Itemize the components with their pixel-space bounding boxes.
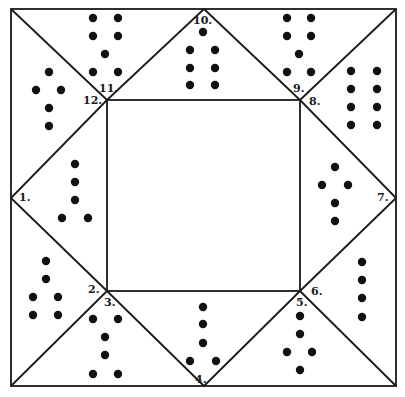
- numbered-dot-diagram: 1.2.3.4.5.6.7.8.9.10.11.12.: [0, 0, 405, 397]
- dot-icon: [29, 293, 37, 301]
- dot-icon: [54, 311, 62, 319]
- region-8-dots: [347, 67, 381, 129]
- dot-icon: [199, 339, 207, 347]
- region-6-dots: [358, 258, 366, 321]
- region-1-dots: [58, 160, 92, 222]
- region-4-dots: [186, 303, 220, 365]
- dot-icon: [358, 258, 366, 266]
- dot-icon: [331, 199, 339, 207]
- dot-icon: [101, 333, 109, 341]
- dot-icon: [347, 67, 355, 75]
- region-label-12: 12.: [83, 94, 102, 107]
- divider-line: [11, 100, 107, 198]
- dot-icon: [114, 14, 122, 22]
- dot-icon: [199, 303, 207, 311]
- dot-icon: [45, 122, 53, 130]
- dot-icon: [373, 103, 381, 111]
- dot-icon: [101, 351, 109, 359]
- region-3-dots: [89, 315, 122, 378]
- dot-icon: [211, 81, 219, 89]
- dot-icon: [186, 81, 194, 89]
- dot-icon: [45, 104, 53, 112]
- region-9-dots: [283, 14, 315, 76]
- divider-line: [204, 291, 300, 386]
- dot-icon: [186, 64, 194, 72]
- dot-icon: [57, 86, 65, 94]
- dot-icon: [331, 217, 339, 225]
- dot-icon: [89, 315, 97, 323]
- region-2-dots: [29, 257, 62, 319]
- dot-icon: [347, 121, 355, 129]
- region-11-dots: [89, 14, 122, 76]
- dot-icon: [186, 357, 194, 365]
- frame-lines: [11, 9, 396, 386]
- dot-icon: [42, 257, 50, 265]
- dot-icon: [308, 348, 316, 356]
- dot-icon: [199, 28, 207, 36]
- dot-icon: [344, 181, 352, 189]
- dot-icon: [89, 32, 97, 40]
- dot-icon: [101, 50, 109, 58]
- dot-icon: [199, 320, 207, 328]
- region-label-3: 3.: [104, 296, 115, 309]
- dot-icon: [71, 160, 79, 168]
- dot-icon: [114, 315, 122, 323]
- divider-line: [300, 291, 396, 386]
- region-label-10: 10.: [193, 14, 212, 27]
- dot-icon: [29, 311, 37, 319]
- dot-icon: [211, 46, 219, 54]
- dot-icon: [58, 214, 66, 222]
- region-7-dots: [318, 163, 352, 225]
- dot-icon: [84, 214, 92, 222]
- dot-icon: [54, 293, 62, 301]
- region-5-dots: [283, 312, 316, 374]
- dot-icon: [42, 275, 50, 283]
- dot-icon: [283, 68, 291, 76]
- region-label-2: 2.: [88, 283, 99, 296]
- region-label-8: 8.: [309, 95, 320, 108]
- dot-icon: [296, 366, 304, 374]
- dot-icon: [347, 85, 355, 93]
- dot-icon: [358, 294, 366, 302]
- dot-icon: [211, 64, 219, 72]
- dot-icon: [114, 68, 122, 76]
- dot-icon: [283, 348, 291, 356]
- divider-line: [11, 198, 107, 291]
- dot-icon: [212, 357, 220, 365]
- region-10-dots: [186, 28, 219, 89]
- dot-icon: [373, 85, 381, 93]
- dot-icon: [71, 196, 79, 204]
- region-label-4: 4.: [195, 373, 206, 386]
- dot-icon: [89, 14, 97, 22]
- dot-icon: [331, 163, 339, 171]
- dot-patterns: [29, 14, 381, 378]
- inner-square: [107, 100, 300, 291]
- dot-icon: [307, 68, 315, 76]
- divider-line: [300, 198, 396, 291]
- dot-icon: [358, 313, 366, 321]
- region-12-dots: [32, 68, 65, 130]
- dot-icon: [296, 312, 304, 320]
- dot-icon: [318, 181, 326, 189]
- dot-icon: [347, 103, 355, 111]
- dot-icon: [283, 32, 291, 40]
- dot-icon: [32, 86, 40, 94]
- divider-line: [107, 291, 204, 386]
- dot-icon: [89, 68, 97, 76]
- dot-icon: [45, 68, 53, 76]
- dot-icon: [373, 121, 381, 129]
- dot-icon: [114, 32, 122, 40]
- dot-icon: [307, 14, 315, 22]
- region-label-9: 9.: [293, 82, 304, 95]
- dot-icon: [186, 46, 194, 54]
- dot-icon: [358, 276, 366, 284]
- dot-icon: [114, 370, 122, 378]
- dot-icon: [283, 14, 291, 22]
- region-label-5: 5.: [296, 296, 307, 309]
- dot-icon: [89, 370, 97, 378]
- region-label-6: 6.: [311, 285, 322, 298]
- dot-icon: [295, 50, 303, 58]
- dot-icon: [71, 178, 79, 186]
- region-label-7: 7.: [377, 191, 388, 204]
- dot-icon: [373, 67, 381, 75]
